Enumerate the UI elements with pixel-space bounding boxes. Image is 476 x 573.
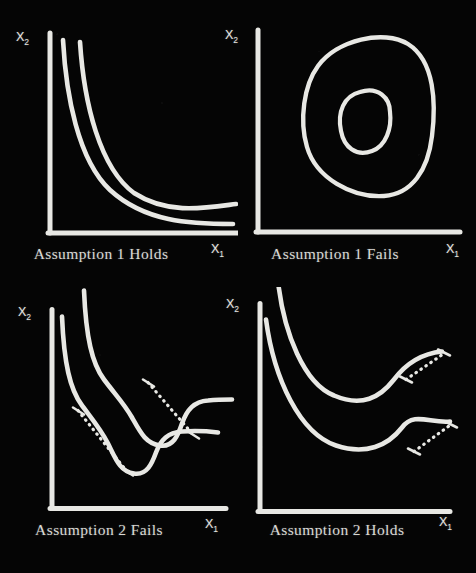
closed-loop-inner xyxy=(340,90,390,152)
panel-1-graphic xyxy=(0,0,238,287)
non-convex-curve-upper xyxy=(84,291,232,446)
panel-assumption-1-fails: X2 X1 Assumption 1 Fails xyxy=(238,0,476,287)
convex-curve-upper xyxy=(278,287,442,401)
panel-2-graphic xyxy=(238,0,476,287)
convex-curve-lower xyxy=(266,320,450,450)
non-convex-curve-lower xyxy=(62,317,218,474)
caption-assumption-1-holds: Assumption 1 Holds xyxy=(0,245,220,263)
panel-assumption-2-fails: X2 X1 Assumption 2 Fails xyxy=(0,287,238,573)
caption-assumption-1-fails: Assumption 1 Fails xyxy=(216,245,454,263)
figure-root: X2 X1 Assumption 1 Holds X2 X1 Assumptio… xyxy=(0,0,476,573)
indifference-curve-lower xyxy=(63,40,233,224)
closed-loop-outer xyxy=(303,37,434,196)
panel-assumption-2-holds: X2 X1 Assumption 2 Holds xyxy=(238,287,476,573)
chord-dotted-lower xyxy=(414,425,451,452)
panel-assumption-1-holds: X2 X1 Assumption 1 Holds xyxy=(0,0,238,287)
chord-dotted-upper xyxy=(148,383,193,435)
y-axis-label-panel-4: X2 xyxy=(226,297,239,314)
y-axis-label-panel-1: X2 xyxy=(16,30,29,47)
y-axis-label-panel-3: X2 xyxy=(18,305,31,322)
y-axis-label-panel-2: X2 xyxy=(225,28,238,45)
caption-assumption-2-holds: Assumption 2 Holds xyxy=(218,521,456,539)
caption-assumption-2-fails: Assumption 2 Fails xyxy=(0,521,218,539)
